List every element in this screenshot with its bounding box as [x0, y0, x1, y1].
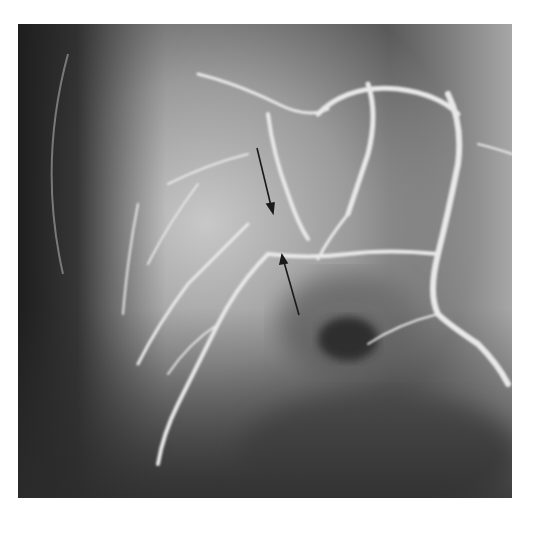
angiogram-graphic — [18, 24, 512, 498]
angiogram-image — [18, 24, 512, 498]
